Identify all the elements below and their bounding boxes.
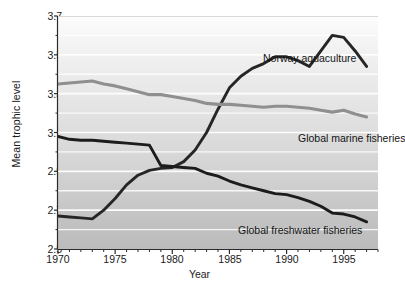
y-tick-label-2.9: 2.9 (22, 166, 62, 177)
y-tick-label-3.3: 3.3 (22, 89, 62, 100)
y-tick-label-3.5: 3.5 (22, 50, 62, 61)
x-tick-label-1980: 1980 (150, 254, 194, 265)
y-axis-title: Mean trophic level (10, 64, 22, 184)
y-tick-label-3.7: 3.7 (22, 11, 62, 22)
x-tick-label-1990: 1990 (265, 254, 309, 265)
series-line-global-marine-fisheries (58, 81, 367, 117)
y-tick-label-3.1: 3.1 (22, 128, 62, 139)
y-tick-label-2.7: 2.7 (22, 205, 62, 216)
x-tick-label-1970: 1970 (36, 254, 80, 265)
series-label-global-marine-fisheries: Global marine fisheries (298, 132, 405, 144)
series-label-norway-aquaculture: Norway aquaculture (263, 52, 356, 64)
plot-area: Norway aquaculture Global marine fisheri… (58, 16, 378, 249)
x-tick-label-1995: 1995 (322, 254, 366, 265)
x-tick-label-1975: 1975 (93, 254, 137, 265)
series-label-global-freshwater-fisheries: Global freshwater fisheries (238, 224, 362, 236)
x-axis-title: Year (0, 268, 399, 280)
x-tick-label-1985: 1985 (208, 254, 252, 265)
